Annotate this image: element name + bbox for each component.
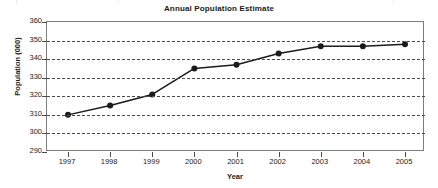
data-point-2004: 2004: 347 <box>360 43 366 49</box>
x-tick-label-2000: 2000 <box>173 157 213 166</box>
data-point-2000: 2000: 335 <box>191 65 197 71</box>
x-axis-tick-labels: 199719981999200020012002200320042005 <box>46 157 424 169</box>
gridline-320 <box>47 96 425 97</box>
x-tick-label-1997: 1997 <box>47 157 87 166</box>
y-tick-340 <box>42 59 47 60</box>
annual-population-estimate-chart: Annual Population Estimate Population (0… <box>0 0 438 188</box>
x-tick-label-2004: 2004 <box>342 157 382 166</box>
y-tick-label-350: 350 <box>18 35 42 44</box>
plot-area: 1997: 3101998: 3151999: 3212000: 3352001… <box>46 21 424 151</box>
series-polyline <box>68 44 405 115</box>
gridline-310 <box>47 115 425 116</box>
x-tick-label-2001: 2001 <box>216 157 256 166</box>
y-tick-label-310: 310 <box>18 109 42 118</box>
y-tick-300 <box>42 133 47 134</box>
y-tick-330 <box>42 78 47 79</box>
y-tick-290 <box>42 152 47 153</box>
data-point-2005: 2005: 348 <box>402 41 408 47</box>
y-tick-360 <box>42 22 47 23</box>
y-tick-320 <box>42 96 47 97</box>
data-point-2003: 2003: 347 <box>318 43 324 49</box>
y-tick-label-340: 340 <box>18 53 42 62</box>
y-axis-tick-labels: 290300310320330340350360 <box>14 21 42 151</box>
data-point-2001: 2001: 337 <box>234 62 240 68</box>
y-tick-label-320: 320 <box>18 90 42 99</box>
y-tick-350 <box>42 41 47 42</box>
gridline-340 <box>47 59 425 60</box>
x-tick-label-2003: 2003 <box>300 157 340 166</box>
x-tick-label-2002: 2002 <box>258 157 298 166</box>
gridline-350 <box>47 41 425 42</box>
y-tick-label-300: 300 <box>18 127 42 136</box>
chart-title: Annual Population Estimate <box>0 4 438 13</box>
x-tick-label-1998: 1998 <box>89 157 129 166</box>
x-axis-title: Year <box>46 172 424 181</box>
x-tick-label-1999: 1999 <box>131 157 171 166</box>
data-point-1998: 1998: 315 <box>107 103 113 109</box>
x-tick-label-2005: 2005 <box>384 157 424 166</box>
gridline-330 <box>47 78 425 79</box>
y-tick-310 <box>42 115 47 116</box>
y-tick-label-290: 290 <box>18 146 42 155</box>
gridline-300 <box>47 133 425 134</box>
y-tick-label-330: 330 <box>18 72 42 81</box>
y-tick-label-360: 360 <box>18 16 42 25</box>
data-point-2002: 2002: 343 <box>276 51 282 57</box>
